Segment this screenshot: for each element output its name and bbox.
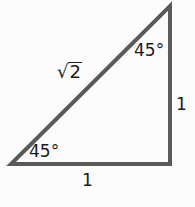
top-angle-label: 45° — [134, 42, 164, 59]
radical-sign: √ — [57, 61, 68, 82]
hypotenuse-label: √2 — [57, 62, 82, 81]
radicand: 2 — [68, 62, 81, 81]
vertical-side-label: 1 — [176, 96, 187, 113]
bottom-angle-label: 45° — [29, 143, 59, 160]
triangle-diagram — [0, 0, 195, 207]
bottom-side-label: 1 — [82, 172, 93, 189]
